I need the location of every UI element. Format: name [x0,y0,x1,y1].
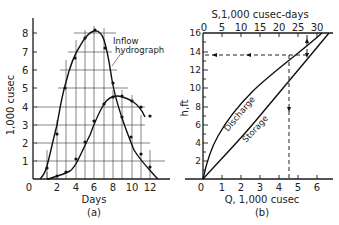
svg-text:1: 1 [219,182,225,193]
svg-text:2: 2 [54,182,60,193]
svg-text:20: 20 [273,22,286,33]
svg-text:6: 6 [314,182,320,193]
svg-text:16: 16 [190,28,202,38]
svg-text:4: 4 [276,182,282,193]
svg-text:2: 2 [22,138,28,149]
svg-text:25: 25 [292,22,305,33]
svg-text:3: 3 [257,182,263,193]
svg-text:15: 15 [254,22,267,33]
svg-text:0: 0 [26,182,32,193]
svg-text:1: 1 [22,156,28,167]
svg-text:10: 10 [235,22,248,33]
panel-a: Inflow hydrograph 8 7 6 5 4 3 2 1 0 2 4 … [5,18,170,218]
svg-text:5: 5 [219,22,225,33]
panel-a-x-tick-labels: 0 2 4 6 8 10 12 [26,182,157,193]
panel-b-y-tick-labels: 16 14 12 10 8 6 4 2 [190,28,202,166]
svg-text:6: 6 [91,182,97,193]
panel-a-label: (a) [87,207,101,218]
annotation-line2: hydrograph [115,45,164,55]
svg-text:10: 10 [126,182,139,193]
panel-a-y-tick-labels: 8 7 6 5 4 3 2 1 [22,28,28,167]
svg-text:2: 2 [238,182,244,193]
svg-text:30: 30 [311,22,324,33]
svg-text:0: 0 [201,22,207,33]
svg-text:5: 5 [295,182,301,193]
svg-text:3: 3 [22,120,28,131]
svg-text:5: 5 [22,83,28,94]
svg-text:8: 8 [110,182,116,193]
storage-label: Storage [240,113,270,144]
svg-text:7: 7 [22,47,28,58]
panel-b-y-ticks [203,42,208,170]
panel-a-y-label: 1,000 cusec [5,75,16,136]
svg-text:12: 12 [190,65,201,75]
svg-text:2: 2 [195,156,201,166]
svg-text:12: 12 [144,182,157,193]
panel-b: Discharge Storage 16 14 12 10 8 6 4 2 0 … [179,9,333,218]
panel-b-x-tick-labels: 0 1 2 3 4 5 6 [198,182,320,193]
panel-b-top-label: S,1,000 cusec-days [211,9,308,20]
svg-text:10: 10 [190,83,202,93]
svg-text:4: 4 [195,138,201,148]
panel-b-x-label: Q, 1,000 cusec [225,194,300,205]
panel-b-top-tick-labels: 0 5 10 15 20 25 30 [201,22,324,33]
svg-text:4: 4 [73,182,79,193]
panel-b-y-label: h,ft [179,100,190,117]
svg-text:6: 6 [195,120,201,130]
panel-a-x-label: Days [82,194,107,205]
figure: Inflow hydrograph 8 7 6 5 4 3 2 1 0 2 4 … [0,0,339,225]
svg-text:8: 8 [195,102,201,112]
svg-text:8: 8 [22,28,28,39]
svg-text:4: 4 [22,102,28,113]
svg-text:14: 14 [190,47,202,57]
panel-b-label: (b) [255,207,269,218]
svg-text:0: 0 [198,182,204,193]
svg-text:6: 6 [22,65,28,76]
